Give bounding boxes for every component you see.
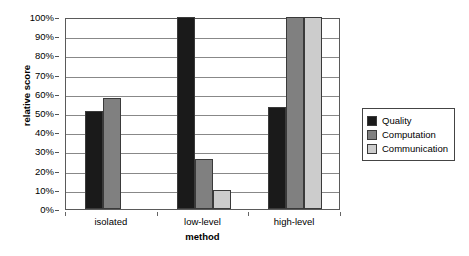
x-tick-mark [65,212,66,216]
bar-chart: relative score 0%10%20%30%40%50%60%70%80… [0,0,469,256]
x-tick-mark [157,212,158,216]
legend-swatch-icon [367,116,377,126]
y-tick-mark [55,133,59,134]
y-tick-label: 40% [35,128,54,138]
y-tick-label: 50% [35,109,54,119]
plot-area [65,18,340,210]
legend-label: Computation [382,130,436,140]
y-tick-label: 80% [35,52,54,62]
y-tick-mark [55,95,59,96]
x-tick-mark [340,212,341,216]
y-tick-mark [55,56,59,57]
bar [177,17,195,209]
bar [213,190,231,209]
legend: QualityComputationCommunication [362,108,455,161]
legend-swatch-icon [367,144,377,154]
x-axis-title: method [65,231,340,242]
y-tick-mark [55,76,59,77]
y-tick-mark [55,210,59,211]
bar [304,17,322,209]
y-tick-mark [55,114,59,115]
legend-item: Computation [367,128,448,141]
legend-item: Communication [367,142,448,155]
y-tick-label: 60% [35,90,54,100]
bars-layer [66,19,339,209]
y-tick-label: 20% [35,167,54,177]
y-tick-label: 90% [35,32,54,42]
legend-item: Quality [367,114,448,127]
y-tick-mark [55,37,59,38]
legend-swatch-icon [367,130,377,140]
y-tick-mark [55,152,59,153]
x-axis-tick-labels: isolatedlow-levelhigh-level [65,212,340,228]
bar [103,98,121,209]
y-tick-label: 70% [35,71,54,81]
y-tick-mark [55,172,59,173]
legend-label: Communication [382,144,448,154]
y-tick-label: 0% [40,205,54,215]
y-tick-label: 10% [35,186,54,196]
y-tick-label: 30% [35,148,54,158]
x-tick-label: isolated [94,216,127,227]
y-tick-label: 100% [30,13,54,23]
y-axis-tick-labels: 0%10%20%30%40%50%60%70%80%90%100% [14,18,58,210]
bar [85,111,103,209]
x-tick-mark [248,212,249,216]
x-tick-label: low-level [184,216,221,227]
bar [195,159,213,209]
bar [268,107,286,209]
legend-label: Quality [382,116,412,126]
y-tick-mark [55,18,59,19]
bar [286,17,304,209]
y-tick-mark [55,191,59,192]
x-tick-label: high-level [274,216,315,227]
